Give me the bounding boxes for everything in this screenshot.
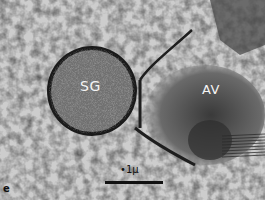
panel-letter: e <box>3 183 10 194</box>
scale-bar-label: •1μ <box>120 164 139 175</box>
micrograph: SG AV •1μ e <box>0 0 265 200</box>
label-sg: SG <box>80 78 101 94</box>
label-av: AV <box>202 82 220 97</box>
scale-bar <box>105 181 163 184</box>
